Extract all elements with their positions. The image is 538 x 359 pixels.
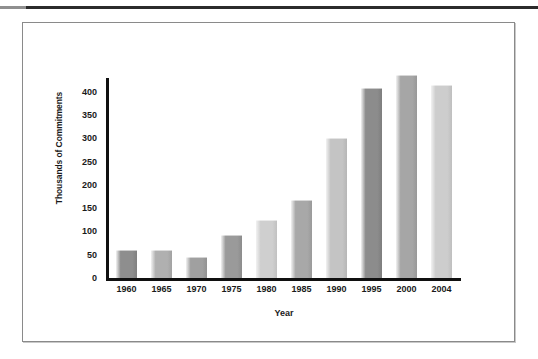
bar-slot (424, 73, 459, 278)
bar-slot (319, 73, 354, 278)
y-tick-label: 250 (67, 157, 97, 166)
y-tick-label: 100 (67, 227, 97, 236)
y-tick-label: 0 (67, 274, 97, 283)
page-top-rule (26, 6, 538, 9)
y-tick-label: 200 (67, 180, 97, 189)
y-tick-label: 350 (67, 110, 97, 119)
bar[interactable] (256, 220, 277, 278)
bar[interactable] (221, 235, 242, 278)
bar-slot (354, 73, 389, 278)
bar-slot (179, 73, 214, 278)
bar[interactable] (326, 138, 347, 278)
bar-chart-plot: Thousands of Commitments 050100150200250… (23, 23, 516, 343)
bar[interactable] (116, 250, 137, 278)
y-tick-label: 50 (67, 250, 97, 259)
bar-slot (109, 73, 144, 278)
bar-slot (284, 73, 319, 278)
bar[interactable] (291, 200, 312, 278)
y-tick-label: 400 (67, 87, 97, 96)
x-tick-label: 1990 (319, 285, 354, 294)
bar-slot (249, 73, 284, 278)
y-axis-tick-labels: 050100150200250300350400 (67, 23, 97, 343)
bar[interactable] (151, 250, 172, 278)
figure-frame: Thousands of Commitments 050100150200250… (22, 22, 515, 342)
bar-slot (389, 73, 424, 278)
x-tick-label: 1975 (214, 285, 249, 294)
x-axis-tick-labels: 1960196519701975198019851990199520002004 (109, 285, 459, 299)
bar[interactable] (186, 257, 207, 279)
x-tick-label: 1995 (354, 285, 389, 294)
bar-slot (144, 73, 179, 278)
page-rule-left-fade (0, 6, 26, 9)
x-tick-label: 1970 (179, 285, 214, 294)
y-tick-label: 300 (67, 134, 97, 143)
x-tick-label: 1965 (144, 285, 179, 294)
bar[interactable] (396, 75, 417, 278)
bar-slot (214, 73, 249, 278)
x-tick-label: 2004 (424, 285, 459, 294)
x-axis-line (106, 278, 461, 281)
y-tick-label: 150 (67, 204, 97, 213)
x-axis-label: Year (109, 308, 459, 318)
x-tick-label: 1960 (109, 285, 144, 294)
x-tick-label: 2000 (389, 285, 424, 294)
bar[interactable] (361, 88, 382, 278)
bar-series (109, 73, 459, 278)
x-tick-label: 1980 (249, 285, 284, 294)
y-axis-label: Thousands of Commitments (54, 78, 64, 218)
bar[interactable] (431, 85, 452, 278)
x-tick-label: 1985 (284, 285, 319, 294)
